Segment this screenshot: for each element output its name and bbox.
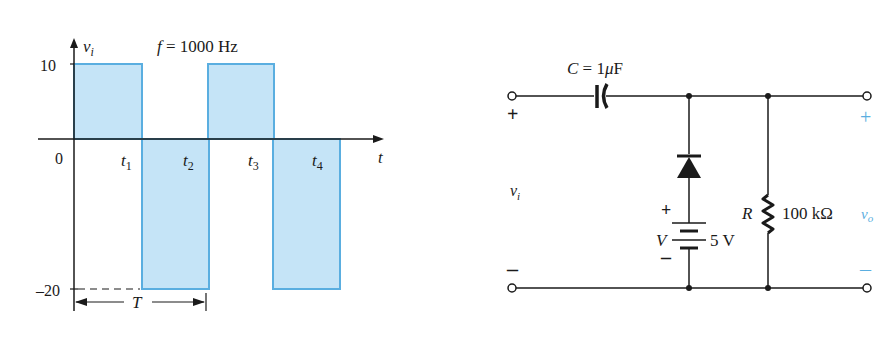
tick-label-minus-20: –20 xyxy=(35,282,60,299)
battery-plus-sign: + xyxy=(661,200,671,220)
diagram-canvas: vi f = 1000 Hz 10 0 –20 t t1 t2 t3 t4 T xyxy=(0,0,875,346)
pulse-positive-2 xyxy=(208,64,274,139)
input-minus-sign: – xyxy=(506,256,519,281)
output-minus-sign: – xyxy=(859,256,872,281)
frequency-label: f = 1000 Hz xyxy=(157,37,238,56)
pulse-positive-1 xyxy=(74,64,142,139)
diode-icon xyxy=(677,156,701,178)
junction-dot xyxy=(765,93,771,99)
clamper-circuit xyxy=(508,84,871,292)
input-plus-sign: + xyxy=(507,103,518,125)
junction-dot xyxy=(686,93,692,99)
junction-dot xyxy=(686,285,692,291)
capacitor-icon xyxy=(597,84,607,108)
battery-icon xyxy=(672,223,706,248)
pulse-negative-1 xyxy=(142,139,209,289)
tick-label-0: 0 xyxy=(55,150,63,167)
time-mark-t1: t1 xyxy=(121,151,132,173)
x-axis-label: t xyxy=(378,148,384,167)
resistor-name: R xyxy=(741,204,753,223)
output-voltage-label: vo xyxy=(861,206,874,224)
battery-value: 5 V xyxy=(710,231,735,250)
tick-label-10: 10 xyxy=(40,57,56,74)
time-mark-t3: t3 xyxy=(248,151,259,173)
output-plus-sign: + xyxy=(860,106,871,128)
junction-dot xyxy=(765,285,771,291)
capacitor-label: C = 1μF xyxy=(567,59,623,78)
period-label: T xyxy=(132,293,143,312)
output-terminal-bottom xyxy=(863,284,871,292)
resistor-icon xyxy=(763,195,773,233)
output-terminal-top xyxy=(863,92,871,100)
input-terminal-bottom xyxy=(508,284,516,292)
y-axis-label: vi xyxy=(83,37,94,59)
y-axis-arrow-icon xyxy=(70,38,78,48)
pulse-negative-2 xyxy=(273,139,340,289)
x-axis-arrow-icon xyxy=(373,135,384,143)
input-terminal-top xyxy=(508,92,516,100)
waveform-plot: vi f = 1000 Hz 10 0 –20 t t1 t2 t3 t4 T xyxy=(35,37,384,312)
resistor-value: 100 kΩ xyxy=(782,204,833,223)
input-voltage-label: vi xyxy=(510,182,520,202)
